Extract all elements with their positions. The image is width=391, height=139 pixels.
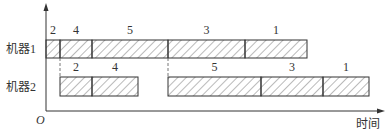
- job-number-label: 5: [127, 24, 133, 36]
- job-number-label: 5: [212, 61, 218, 73]
- y-axis-arrow-icon: [44, 3, 49, 11]
- job-number-label: 3: [204, 24, 210, 36]
- job-number-label: 4: [112, 61, 118, 73]
- task-block-machine-1-job-1: [245, 40, 307, 58]
- origin-label: O: [36, 114, 45, 126]
- task-block-machine-1-job-5: [92, 40, 168, 58]
- x-axis-label: 时间: [356, 118, 380, 130]
- job-number-label: 1: [273, 24, 279, 36]
- task-block-machine-2-job-5: [168, 77, 261, 96]
- job-number-label: 1: [343, 61, 349, 73]
- task-block-machine-2-job-2: [60, 77, 92, 96]
- task-block-machine-2-job-3: [261, 77, 323, 96]
- task-block-machine-2-job-1: [323, 77, 369, 96]
- x-axis-arrow-icon: [377, 109, 385, 114]
- gantt-chart: [0, 0, 391, 139]
- task-block-machine-1-job-3: [168, 40, 245, 58]
- job-number-label: 2: [73, 61, 79, 73]
- task-block-machine-1-job-4: [60, 40, 92, 58]
- task-block-machine-2-job-4: [92, 77, 138, 96]
- job-number-label: 4: [73, 24, 79, 36]
- row-label-machine-1: 机器1: [6, 43, 36, 55]
- row-label-machine-2: 机器2: [6, 81, 36, 93]
- task-block-machine-1-job-2: [46, 40, 60, 58]
- job-number-label: 3: [289, 61, 295, 73]
- job-number-label: 2: [50, 24, 56, 36]
